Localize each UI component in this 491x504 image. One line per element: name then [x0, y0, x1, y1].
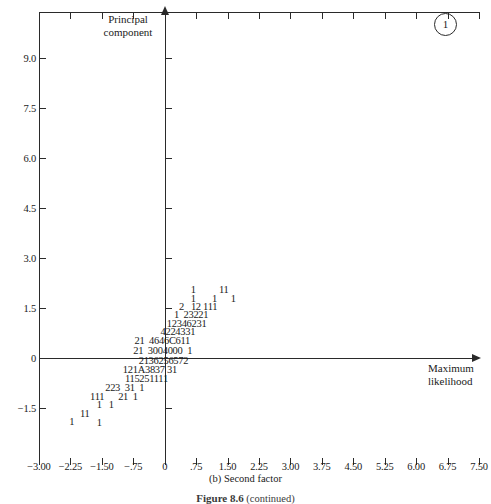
data-glyph-row: 1 1 — [97, 399, 114, 410]
data-glyph-row: 1 — [69, 416, 74, 427]
figure-container: −3.00−2.25−1.50−.750.751.502.253.003.754… — [0, 0, 491, 504]
subfigure-caption: (b) Second factor — [0, 473, 491, 484]
plot-area: −3.00−2.25−1.50−.750.751.502.253.003.754… — [0, 0, 491, 470]
data-glyph-row: 11 — [80, 408, 90, 419]
data-glyph-layer: 1 111 1 12 12 1111 232211234623142243312… — [0, 0, 491, 470]
figure-caption-note: (continued) — [246, 493, 294, 504]
figure-caption-label: Figure 8.6 — [196, 492, 243, 504]
figure-caption: Figure 8.6 (continued) — [0, 492, 491, 504]
data-glyph-row: 1 — [97, 417, 102, 428]
